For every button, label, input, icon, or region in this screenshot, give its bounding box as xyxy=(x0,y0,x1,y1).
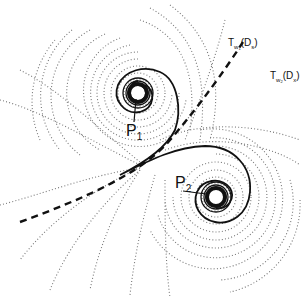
p1-center-dot xyxy=(136,90,140,94)
p2-center-dot xyxy=(214,194,218,198)
label-tw2-dx: Tw2(Dx) xyxy=(270,70,300,84)
dotted-field-p1 xyxy=(0,5,225,165)
spiral-diagram: P1 P2 Tw1(Ds) Tw2(Dx) xyxy=(0,0,308,298)
label-tw1-ds: Tw1(Ds) xyxy=(228,37,258,51)
diagram-canvas: P1 P2 Tw1(Ds) Tw2(Dx) xyxy=(0,0,308,298)
